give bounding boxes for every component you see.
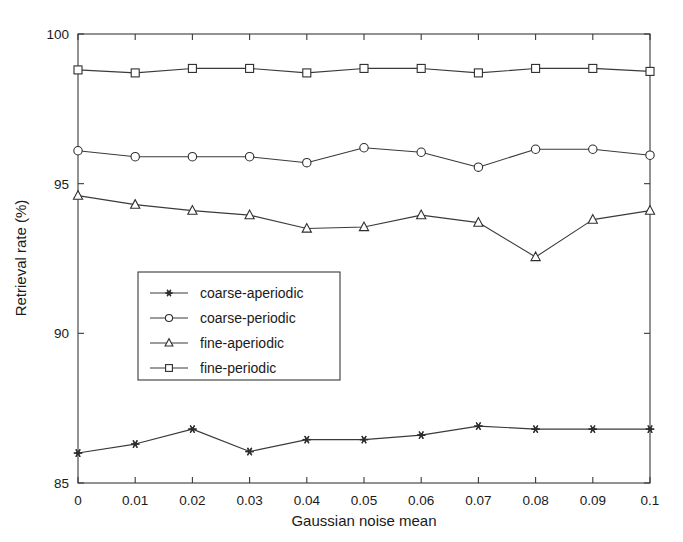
data-point-square <box>303 69 311 77</box>
y-tick-label: 100 <box>46 27 69 42</box>
data-series-layer <box>73 64 654 456</box>
data-point-star <box>417 431 425 438</box>
data-point-triangle <box>645 206 654 215</box>
chart-legend: coarse-aperiodiccoarse-periodicfine-aper… <box>138 272 340 380</box>
data-point-square <box>188 64 196 72</box>
data-point-circle <box>531 145 539 153</box>
data-point-circle <box>303 159 311 167</box>
data-point-square <box>532 64 540 72</box>
data-point-triangle <box>73 191 82 200</box>
data-point-circle <box>74 147 82 155</box>
x-tick-label: 0.09 <box>580 493 606 508</box>
data-point-star <box>245 448 253 455</box>
x-axis-tick-labels: 00.010.020.030.040.050.060.070.080.090.1 <box>74 493 659 508</box>
legend-label: coarse-aperiodic <box>200 285 304 301</box>
plot-frame <box>78 34 650 483</box>
data-point-star <box>303 436 311 443</box>
data-point-circle <box>646 151 654 159</box>
data-point-square <box>646 67 654 75</box>
x-tick-label: 0.06 <box>408 493 434 508</box>
legend-label: fine-aperiodic <box>200 335 284 351</box>
x-tick-label: 0.04 <box>294 493 321 508</box>
y-tick-label: 85 <box>54 476 69 491</box>
series-coarse-aperiodic <box>74 422 654 456</box>
x-tick-label: 0.02 <box>179 493 205 508</box>
data-point-circle <box>188 153 196 161</box>
data-point-square <box>74 66 82 74</box>
y-tick-label: 90 <box>54 326 69 341</box>
x-tick-label: 0.08 <box>522 493 548 508</box>
data-point-circle <box>165 314 172 321</box>
data-point-triangle <box>531 252 540 261</box>
chart-figure: 00.010.020.030.040.050.060.070.080.090.1… <box>0 0 683 542</box>
data-point-square <box>417 64 425 72</box>
data-point-star <box>188 425 196 432</box>
data-point-triangle <box>417 210 426 219</box>
data-point-square <box>131 69 139 77</box>
data-point-circle <box>417 148 425 156</box>
data-point-star <box>589 425 597 432</box>
data-point-star <box>131 440 139 447</box>
x-axis-ticks <box>78 34 650 483</box>
legend-label: coarse-periodic <box>200 310 296 326</box>
data-point-square <box>166 365 173 372</box>
y-axis-ticks <box>78 34 650 483</box>
x-tick-label: 0.1 <box>641 493 660 508</box>
x-tick-label: 0.05 <box>351 493 377 508</box>
data-point-star <box>531 425 539 432</box>
data-point-square <box>360 64 368 72</box>
data-point-circle <box>589 145 597 153</box>
data-point-circle <box>245 153 253 161</box>
data-point-circle <box>474 163 482 171</box>
y-axis-title: Retrieval rate (%) <box>12 200 29 317</box>
data-point-circle <box>131 153 139 161</box>
y-axis-tick-labels: 859095100 <box>46 27 69 491</box>
data-point-circle <box>360 144 368 152</box>
x-tick-label: 0.01 <box>122 493 148 508</box>
data-point-square <box>246 64 254 72</box>
x-tick-label: 0.03 <box>236 493 262 508</box>
data-point-square <box>474 69 482 77</box>
series-fine-periodic <box>74 64 654 76</box>
x-tick-label: 0.07 <box>465 493 491 508</box>
retrieval-rate-line-chart: 00.010.020.030.040.050.060.070.080.090.1… <box>0 0 683 542</box>
legend-label: fine-periodic <box>200 360 276 376</box>
data-point-star <box>360 436 368 443</box>
y-tick-label: 95 <box>54 177 69 192</box>
x-tick-label: 0 <box>74 493 82 508</box>
data-point-square <box>589 64 597 72</box>
x-axis-title: Gaussian noise mean <box>291 512 436 529</box>
series-coarse-periodic <box>74 144 654 172</box>
series-fine-aperiodic <box>73 191 654 261</box>
data-point-star <box>474 422 482 429</box>
